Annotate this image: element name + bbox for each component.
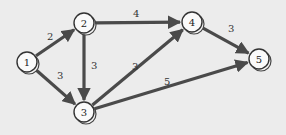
- edge-2-4: [95, 22, 180, 23]
- edge-weight-label: 2: [47, 31, 53, 42]
- edges-group: 2334353: [35, 8, 248, 109]
- node-label: 2: [81, 18, 87, 29]
- edge-weight-label: 5: [164, 76, 170, 87]
- node-1: 1: [17, 52, 39, 74]
- node-label: 1: [24, 57, 30, 68]
- graph-diagram: 2334353 12345: [0, 0, 286, 135]
- edge-weight-label: 3: [228, 23, 234, 34]
- node-3: 3: [74, 102, 96, 124]
- edge-weight-label: 3: [91, 60, 97, 71]
- node-label: 4: [189, 17, 195, 28]
- node-label: 3: [81, 107, 87, 118]
- edge-weight-label: 3: [132, 61, 138, 72]
- edge-weight-label: 4: [133, 8, 139, 19]
- node-2: 2: [74, 13, 96, 35]
- node-label: 5: [256, 54, 262, 65]
- edge-1-2: [36, 30, 74, 56]
- edge-weight-label: 3: [57, 70, 63, 81]
- edge-4-5: [202, 27, 249, 53]
- edge-1-3: [35, 69, 75, 104]
- node-4: 4: [182, 12, 204, 34]
- node-5: 5: [249, 49, 271, 71]
